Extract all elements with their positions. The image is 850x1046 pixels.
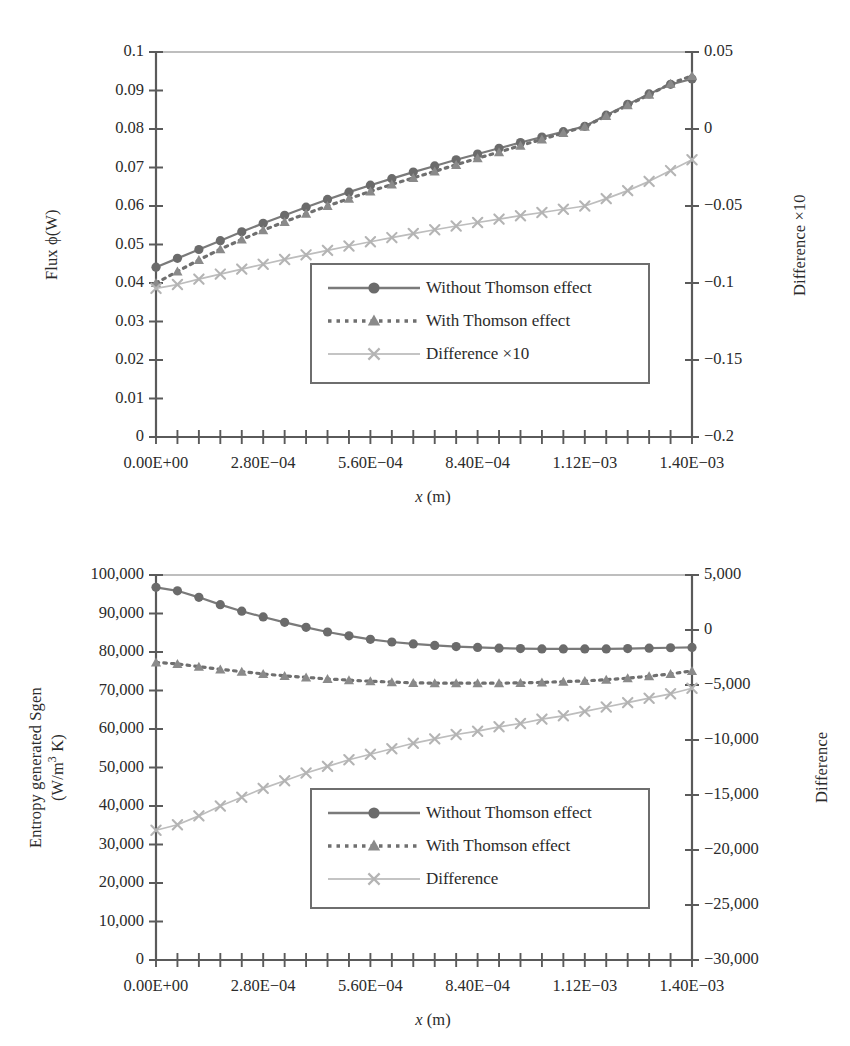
legend-item[interactable]: With Thomson effect	[322, 829, 640, 862]
y-tick-label: 0.02	[115, 349, 144, 369]
data-point-circle-icon	[666, 643, 675, 652]
y2-tick-label: −10,000	[704, 729, 759, 749]
y2-tick-label: −0.05	[704, 195, 742, 215]
legend-item[interactable]: With Thomson effect	[322, 304, 640, 337]
data-point-circle-icon	[259, 612, 268, 621]
data-point-circle-icon	[194, 245, 203, 254]
data-point-triangle-icon	[237, 235, 247, 244]
y-tick-label: 20,000	[99, 872, 144, 892]
data-point-circle-icon	[344, 631, 353, 640]
y2-tick-label: 0	[704, 118, 712, 138]
legend-key-cross-icon	[322, 339, 426, 369]
data-point-circle-icon	[623, 644, 632, 653]
data-point-triangle-icon	[494, 678, 504, 687]
data-point-circle-icon	[473, 643, 482, 652]
data-point-triangle-icon	[322, 674, 332, 683]
data-point-cross-icon	[666, 166, 675, 175]
y-tick-label: 60,000	[99, 718, 144, 738]
data-point-circle-icon	[216, 600, 225, 609]
data-point-triangle-icon	[280, 217, 290, 226]
data-point-triangle-icon	[408, 678, 418, 687]
data-point-circle-icon	[280, 618, 289, 627]
y-tick-label: 0.05	[115, 234, 144, 254]
data-point-circle-icon	[237, 607, 246, 616]
legend-label: Difference ×10	[426, 344, 529, 364]
data-point-circle-icon	[494, 644, 503, 653]
data-point-triangle-icon	[215, 244, 225, 253]
flux-chart-panel: Flux ϕ(W) Difference ×10 x (m) Without T…	[0, 0, 850, 523]
legend-item[interactable]: Difference	[322, 862, 640, 895]
data-point-triangle-icon	[665, 669, 675, 678]
data-point-cross-icon	[237, 793, 246, 802]
y-tick-label: 80,000	[99, 641, 144, 661]
data-point-circle-icon	[173, 254, 182, 263]
y2-tick-label: −0.2	[704, 426, 734, 446]
entropy-chart-panel: Entropy generated Sgen (W/m3 K) Differen…	[0, 523, 850, 1046]
data-point-cross-icon	[323, 762, 332, 771]
legend-key-solid-circle-icon	[322, 798, 426, 828]
flux-chart-y2-axis-title: Difference ×10	[790, 194, 809, 296]
y2-tick-label: −0.1	[704, 272, 734, 292]
data-point-circle-icon	[580, 644, 589, 653]
legend-key-dotted-triangle-icon	[322, 831, 426, 861]
entropy-chart-x-axis-title: x (m)	[153, 1010, 713, 1030]
y-tick-label: 0.06	[115, 195, 144, 215]
y2-tick-label: −30,000	[704, 949, 759, 969]
y2-tick-label: −25,000	[704, 894, 759, 914]
flux-chart-y-axis-title: Flux ϕ(W)	[42, 209, 61, 280]
y-tick-label: 0.03	[115, 311, 144, 331]
data-point-circle-icon	[387, 637, 396, 646]
entropy-y-title-line1: Entropy generated Sgen	[26, 687, 45, 848]
legend-item[interactable]: Difference ×10	[322, 337, 640, 370]
series-line-1	[156, 76, 692, 283]
data-point-circle-icon	[559, 644, 568, 653]
y2-tick-label: 5,000	[704, 564, 741, 584]
data-point-circle-icon	[173, 586, 182, 595]
legend-item[interactable]: Without Thomson effect	[322, 796, 640, 829]
data-point-triangle-icon	[258, 225, 268, 234]
data-point-cross-icon	[644, 177, 653, 186]
data-point-triangle-icon	[322, 201, 332, 210]
figure-container: Flux ϕ(W) Difference ×10 x (m) Without T…	[0, 0, 850, 1046]
data-point-triangle-icon	[687, 71, 697, 80]
data-point-circle-icon	[216, 236, 225, 245]
y-tick-label: 0	[136, 426, 144, 446]
y-tick-label: 30,000	[99, 834, 144, 854]
y2-tick-label: −15,000	[704, 784, 759, 804]
data-point-circle-icon	[602, 644, 611, 653]
legend-label: Without Thomson effect	[426, 803, 592, 823]
y-tick-label: 0.07	[115, 157, 144, 177]
y-tick-label: 0.08	[115, 118, 144, 138]
x-tick-label: 1.40E−03	[612, 453, 772, 473]
y-tick-label: 10,000	[99, 911, 144, 931]
data-point-cross-icon	[216, 801, 225, 810]
entropy-y-title-line2: (W/m3 K)	[45, 687, 67, 848]
y-tick-label: 0.04	[115, 272, 144, 292]
entropy-chart-y-axis-title: Entropy generated Sgen (W/m3 K)	[26, 687, 67, 848]
data-point-triangle-icon	[172, 267, 182, 276]
data-point-circle-icon	[194, 593, 203, 602]
data-point-cross-icon	[259, 784, 268, 793]
x-tick-label: 1.40E−03	[612, 976, 772, 996]
legend-key-cross-icon	[322, 864, 426, 894]
data-point-circle-icon	[537, 644, 546, 653]
y2-tick-label: −20,000	[704, 839, 759, 859]
legend-item[interactable]: Without Thomson effect	[322, 271, 640, 304]
data-point-circle-icon	[366, 635, 375, 644]
data-point-circle-icon	[645, 644, 654, 653]
data-point-triangle-icon	[301, 209, 311, 218]
data-point-circle-icon	[409, 639, 418, 648]
y-tick-label: 100,000	[90, 564, 144, 584]
y2-tick-label: 0.05	[704, 41, 733, 61]
y-tick-label: 0.1	[123, 41, 144, 61]
series-line-0	[156, 587, 692, 649]
legend-label: With Thomson effect	[426, 311, 570, 331]
y2-tick-label: 0	[704, 619, 712, 639]
data-point-circle-icon	[151, 583, 160, 592]
y-tick-label: 50,000	[99, 757, 144, 777]
data-point-circle-icon	[687, 643, 696, 652]
legend-label: Without Thomson effect	[426, 278, 592, 298]
data-point-cross-icon	[602, 194, 611, 203]
y2-tick-label: −0.15	[704, 349, 742, 369]
data-point-circle-icon	[516, 644, 525, 653]
